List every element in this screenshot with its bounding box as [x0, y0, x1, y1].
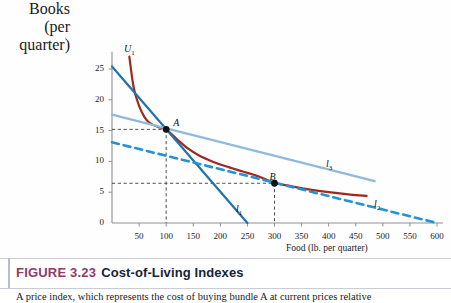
y-axis-tick-label: 25 — [82, 63, 104, 73]
chart-plot-area: Books (per quarter) Food (lb. per quarte… — [0, 0, 451, 258]
figure-container: Books (per quarter) Food (lb. per quarte… — [0, 0, 451, 303]
curve-label-l1: l1 — [236, 203, 242, 217]
figure-caption-block: FIGURE 3.23Cost-of-Living Indexes A pric… — [0, 258, 451, 303]
x-axis-tick-label: 350 — [290, 231, 314, 241]
x-axis-tick-label: 450 — [344, 231, 368, 241]
curve-label-U1: U1 — [124, 43, 135, 57]
y-axis-tick-label: 5 — [82, 186, 104, 196]
point-label-A: A — [173, 117, 179, 128]
y-axis-tick-label: 10 — [82, 155, 104, 165]
figure-number: FIGURE 3.23 — [16, 265, 96, 280]
y-axis-tick-label: 15 — [82, 125, 104, 135]
x-axis-tick-label: 150 — [181, 231, 205, 241]
x-axis-tick-label: 400 — [317, 231, 341, 241]
figure-caption-text: A price index, which represents the cost… — [16, 291, 444, 302]
x-axis-tick-label: 50 — [127, 231, 151, 241]
chart-svg — [0, 0, 451, 258]
x-axis-tick-label: 500 — [371, 231, 395, 241]
curve-label-l3: l3 — [326, 158, 332, 172]
caption-divider — [0, 288, 451, 289]
curve-label-l2: l2 — [374, 198, 380, 212]
figure-title: Cost-of-Living Indexes — [101, 265, 243, 280]
x-axis-tick-label: 100 — [154, 231, 178, 241]
x-axis-tick-label: 300 — [263, 231, 287, 241]
caption-left-rule — [8, 258, 10, 288]
figure-title-row: FIGURE 3.23Cost-of-Living Indexes — [16, 263, 244, 281]
x-axis-tick-label: 550 — [398, 231, 422, 241]
x-axis-tick-label: 600 — [425, 231, 449, 241]
y-axis-tick-label: 0 — [82, 217, 104, 227]
x-axis-tick-label: 200 — [208, 231, 232, 241]
x-axis-title: Food (lb. per quarter) — [286, 243, 368, 254]
point-label-B: B — [270, 171, 276, 182]
data-point-A — [163, 126, 170, 133]
x-axis-tick-label: 250 — [235, 231, 259, 241]
caption-top-rule — [0, 258, 451, 259]
y-axis-tick-label: 20 — [82, 94, 104, 104]
